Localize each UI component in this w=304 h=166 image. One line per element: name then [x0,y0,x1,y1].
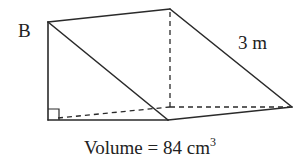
edge-front-hypotenuse [48,22,168,120]
edge-length-label: 3 m [238,32,267,53]
edge-bottom-right [168,107,292,120]
edge-back-hypotenuse [170,9,292,107]
vertex-label-b: B [18,20,31,41]
volume-label: Volume = 84 cm3 [84,135,216,158]
volume-exponent: 3 [210,135,216,149]
edge-top [48,9,170,22]
prism-diagram: B 3 m Volume = 84 cm3 [0,0,304,166]
volume-text: Volume = 84 cm [84,137,210,158]
right-angle-marker [48,109,59,120]
